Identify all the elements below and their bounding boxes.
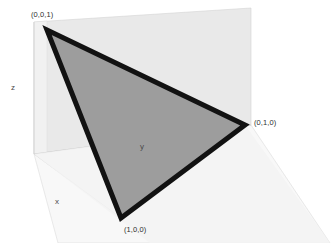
simplex-figure: (0,0,1) (0,1,0) (1,0,0) z y x	[0, 0, 331, 243]
left-plane	[34, 21, 47, 154]
simplex-diagram-canvas	[0, 0, 331, 243]
vertex-marker-100	[120, 217, 122, 219]
vertex-marker-001	[46, 29, 48, 31]
vertex-marker-010	[244, 124, 246, 126]
